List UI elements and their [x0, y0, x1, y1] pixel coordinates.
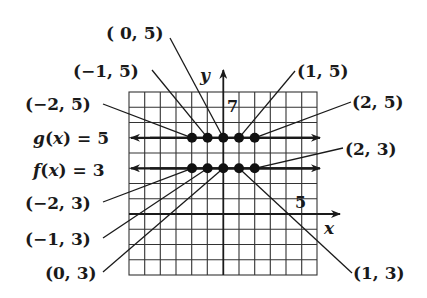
label-point-neg2-5: (−2, 5): [25, 94, 91, 114]
point-1-5: [234, 133, 244, 143]
function-graph: y x 7 5 ( 0, 5) (−1, 5) (−2,: [0, 0, 427, 298]
label-point-neg1-3: (−1, 3): [25, 229, 91, 249]
label-point-1-5: (1, 5): [297, 61, 349, 81]
point-1-3: [234, 163, 244, 173]
point-neg1-5: [203, 133, 213, 143]
x-tick-label: 5: [295, 193, 306, 212]
label-point-neg1-5: (−1, 5): [73, 61, 139, 81]
label-point-1-3: (1, 3): [353, 263, 405, 283]
label-point-0-5: ( 0, 5): [106, 23, 164, 43]
point-neg1-3: [203, 163, 213, 173]
point-0-5: [218, 133, 228, 143]
y-axis-label: y: [199, 65, 211, 85]
point-neg2-5: [187, 133, 197, 143]
label-point-2-3: (2, 3): [345, 139, 397, 159]
y-tick-label: 7: [227, 97, 238, 116]
label-point-0-3: (0, 3): [45, 263, 97, 283]
point-2-3: [250, 163, 260, 173]
point-2-5: [250, 133, 260, 143]
point-0-3: [218, 163, 228, 173]
label-g-function: g(x) = 5: [33, 128, 109, 148]
label-point-2-5: (2, 5): [352, 92, 404, 112]
label-f-function: f(x) = 3: [32, 160, 104, 180]
point-neg2-3: [187, 163, 197, 173]
x-axis-label: x: [323, 218, 335, 238]
label-point-neg2-3: (−2, 3): [25, 193, 91, 213]
